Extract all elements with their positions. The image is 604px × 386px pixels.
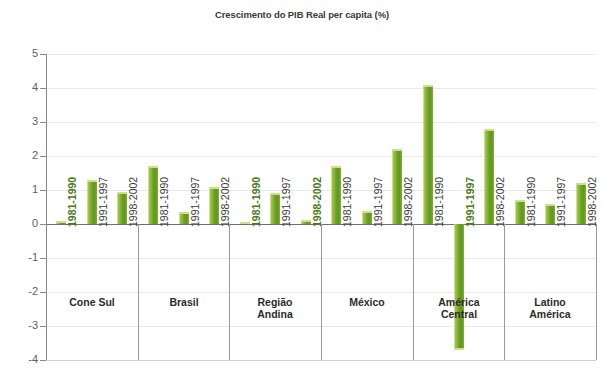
gridline-3 (46, 122, 596, 123)
y-axis-label-1: 1 (8, 183, 38, 195)
group-label-méxico: México (321, 296, 413, 308)
group-label-line1: América (438, 296, 479, 308)
y-tick-4 (40, 88, 47, 89)
chart-title: Crescimento do PIB Real per capita (%) (0, 9, 604, 20)
period-label-1998-2002: 1998-2002 (402, 177, 414, 227)
y-tick-1 (40, 190, 47, 191)
bar-top-highlight (117, 192, 127, 194)
group-separator (229, 224, 230, 360)
y-axis-label--2: -2 (8, 285, 38, 297)
y-axis-label--1: -1 (8, 251, 38, 263)
y-tick-2 (40, 156, 47, 157)
y-axis-label-3: 3 (8, 115, 38, 127)
group-label-line2: América (504, 308, 596, 320)
plot-right-border (596, 224, 597, 360)
bar-top-highlight (209, 187, 219, 189)
y-tick-0 (40, 224, 47, 225)
y-axis-label-2: 2 (8, 149, 38, 161)
group-label-cone-sul: Cone Sul (46, 296, 138, 308)
group-label-line1: México (349, 296, 385, 308)
bar-top-highlight (484, 129, 494, 131)
bar-top-highlight (545, 204, 555, 206)
bar-top-highlight (301, 220, 311, 222)
bar-top-highlight (454, 348, 464, 350)
period-label-1981-1990: 1981-1990 (66, 177, 78, 227)
period-label-1991-1997: 1991-1997 (189, 177, 201, 227)
period-label-1981-1990: 1981-1990 (250, 177, 262, 227)
bar-américa-1981-1990 (423, 85, 433, 224)
period-label-1998-2002: 1998-2002 (311, 177, 323, 227)
group-separator (413, 224, 414, 360)
bar-brasil-1981-1990 (148, 166, 158, 224)
bar-top-highlight (331, 166, 341, 168)
group-label-line2: Central (413, 308, 505, 320)
y-axis-label--3: -3 (8, 319, 38, 331)
bar-top-highlight (87, 180, 97, 182)
group-separator (321, 224, 322, 360)
chart-container: Crescimento do PIB Real per capita (%) 5… (0, 0, 604, 386)
bar-top-highlight (56, 221, 66, 223)
bar-top-highlight (362, 211, 372, 213)
period-label-1991-1997: 1991-1997 (97, 177, 109, 227)
bar-méxico-1998-2002 (392, 149, 402, 224)
bar-top-highlight (179, 212, 189, 214)
gridline-2 (46, 156, 596, 157)
period-label-1991-1997: 1991-1997 (555, 177, 567, 227)
period-label-1991-1997: 1991-1997 (372, 177, 384, 227)
group-label-região: RegiãoAndina (229, 296, 321, 320)
group-label-line1: Região (257, 296, 292, 308)
group-label-line1: Brasil (169, 296, 198, 308)
bar-latino-1991-1997 (545, 204, 555, 224)
y-axis-label-5: 5 (8, 47, 38, 59)
period-label-1998-2002: 1998-2002 (586, 177, 598, 227)
period-label-1998-2002: 1998-2002 (127, 177, 139, 227)
group-label-line1: Cone Sul (69, 296, 115, 308)
group-label-américa: AméricaCentral (413, 296, 505, 320)
bar-top-highlight (392, 149, 402, 151)
y-tick-3 (40, 122, 47, 123)
bar-cone-sul-1998-2002 (117, 192, 127, 224)
period-label-1981-1990: 1981-1990 (341, 177, 353, 227)
y-tick--2 (40, 292, 47, 293)
y-axis-label-4: 4 (8, 81, 38, 93)
bar-brasil-1998-2002 (209, 187, 219, 224)
bar-cone-sul-1991-1997 (87, 180, 97, 224)
y-tick-5 (40, 54, 47, 55)
y-axis-line (46, 54, 47, 360)
gridline-4 (46, 88, 596, 89)
bar-méxico-1981-1990 (331, 166, 341, 224)
period-label-1998-2002: 1998-2002 (494, 177, 506, 227)
period-label-1981-1990: 1981-1990 (525, 177, 537, 227)
bar-latino-1998-2002 (576, 183, 586, 224)
bar-top-highlight (423, 85, 433, 87)
group-separator (504, 224, 505, 360)
period-label-1981-1990: 1981-1990 (433, 177, 445, 227)
y-axis-label-0: 0 (8, 217, 38, 229)
period-label-1991-1997: 1991-1997 (280, 177, 292, 227)
y-axis-label--4: -4 (8, 353, 38, 365)
bar-top-highlight (515, 200, 525, 202)
period-label-1981-1990: 1981-1990 (158, 177, 170, 227)
bar-top-highlight (270, 193, 280, 195)
period-label-1991-1997: 1991-1997 (464, 177, 476, 227)
period-label-1998-2002: 1998-2002 (219, 177, 231, 227)
y-tick--1 (40, 258, 47, 259)
bar-região-1991-1997 (270, 193, 280, 224)
plot-bottom-border (46, 360, 596, 361)
group-label-line2: Andina (229, 308, 321, 320)
bar-latino-1981-1990 (515, 200, 525, 224)
gridline-5 (46, 54, 596, 55)
bar-américa-1998-2002 (484, 129, 494, 224)
bar-top-highlight (148, 166, 158, 168)
bar-top-highlight (240, 222, 250, 224)
group-label-latino: LatinoAmérica (504, 296, 596, 320)
group-label-line1: Latino (534, 296, 566, 308)
bar-américa-1991-1997 (454, 224, 464, 350)
group-separator (138, 224, 139, 360)
y-tick--3 (40, 326, 47, 327)
group-label-brasil: Brasil (138, 296, 230, 308)
bar-top-highlight (576, 183, 586, 185)
